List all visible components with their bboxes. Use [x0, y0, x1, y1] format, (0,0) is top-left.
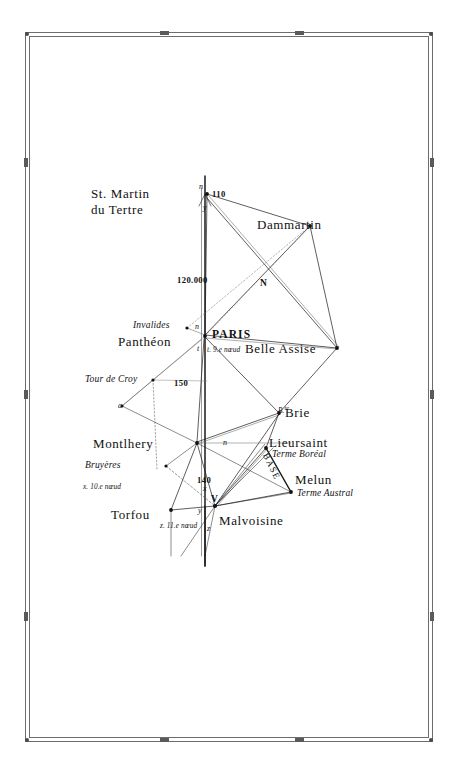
leg-brie-montlhery	[197, 413, 279, 442]
ray-tourdecroy-drop	[153, 380, 157, 470]
annotation-noeud-11: z. 11.e nœud	[160, 522, 197, 529]
station-prefix-brie: B.te	[278, 405, 289, 415]
border-tick-right-2	[430, 390, 434, 399]
leg-montlhery-torfou	[171, 443, 197, 510]
station-label-pantheon: Panthéon	[118, 335, 171, 348]
vertex-dot-bruyeres	[164, 464, 167, 467]
point-mark-z-malvoisine: z	[207, 525, 210, 533]
point-mark-x-malvoisine: x	[203, 485, 207, 493]
station-label-belle-assise: Belle Assise	[245, 342, 316, 355]
ray-bruyeres-malvoisine	[166, 466, 215, 506]
station-label-montlhery: Montlhery	[93, 437, 153, 450]
station-label-bruyeres: Bruyères	[85, 461, 121, 471]
border-corner-dot-bl	[25, 738, 29, 742]
ray-malvoisine-ne1	[215, 444, 265, 506]
station-label-tour-de-croy: Tour de Croy	[85, 375, 137, 385]
border-corner-dot-br	[429, 738, 433, 742]
station-label-invalides: Invalides	[133, 321, 170, 331]
station-label-st-martin-du-tertre: St. Martin du Tertre	[91, 186, 150, 218]
triangulation-map: St. Martin du Tertre 110 n y Dammartin 1…	[29, 36, 429, 738]
leg-dammartin-belleassise	[310, 226, 337, 348]
scale-mark-150: 150	[174, 379, 188, 388]
vertex-dot-tourdecroy	[151, 378, 154, 381]
leg-torfou-malvoisine	[171, 506, 215, 510]
leg-belleassise-brie	[279, 348, 337, 413]
station-label-lieursaint: Lieursaint	[269, 436, 328, 449]
station-label-melun: Melun	[295, 473, 332, 486]
border-tick-right-3	[430, 612, 434, 621]
border-tick-left-3	[24, 612, 28, 621]
border-tick-right-1	[430, 158, 434, 167]
point-label-a: a	[118, 402, 122, 410]
engraved-plate: St. Martin du Tertre 110 n y Dammartin 1…	[0, 0, 459, 769]
vertex-dot-belleassise	[335, 346, 339, 350]
point-label-N: N	[260, 279, 267, 289]
station-label-malvoisine: Malvoisine	[219, 514, 284, 527]
vertex-dot-lieursaint	[264, 446, 268, 450]
point-mark-n-paris: n	[195, 323, 199, 331]
point-label-V: V	[211, 495, 218, 505]
annotation-noeud-9: t. 9.e nœud	[207, 346, 240, 353]
station-label-paris: PARIS	[212, 329, 251, 341]
station-label-torfou: Torfou	[111, 508, 150, 521]
vertex-dot-stmartin	[205, 192, 209, 196]
station-label-dammartin: Dammartin	[257, 218, 322, 231]
border-tick-bottom-1	[160, 738, 169, 742]
annotation-terme-boreal: Terme Boréal	[272, 450, 326, 460]
leg-lieursaint-malvoisine	[215, 448, 266, 506]
triangulation-network-svg	[29, 36, 429, 738]
leg-brie-montlhery-b	[197, 415, 279, 444]
scale-mark-110: 110	[212, 190, 226, 199]
leg-paris-montlhery	[197, 339, 204, 442]
vertex-dot-paris	[203, 334, 207, 338]
point-mark-n-montlhery: n	[223, 439, 227, 447]
point-mark-n-upper: n	[199, 183, 203, 191]
border-tick-top-1	[160, 31, 169, 35]
border-tick-bottom-2	[295, 738, 304, 742]
vertex-dot-torfou	[169, 508, 173, 512]
border-tick-left-2	[24, 390, 28, 399]
border-tick-top-2	[295, 31, 304, 35]
point-mark-y-malvoisine: y	[198, 507, 202, 515]
vertex-dot-melun	[289, 490, 293, 494]
vertex-dot-invalides	[185, 326, 188, 329]
scale-mark-120000: 120.000	[177, 276, 208, 285]
annotation-terme-austral: Terme Austral	[297, 489, 353, 499]
border-corner-dot-tr	[429, 32, 433, 36]
point-mark-y-upper: y	[203, 204, 207, 212]
vertex-dot-malvoisine	[213, 504, 217, 508]
annotation-noeud-10: x. 10.e nœud	[83, 483, 121, 490]
border-tick-left-1	[24, 158, 28, 167]
vertex-dot-montlhery	[195, 441, 199, 445]
point-mark-t-paris: t	[197, 345, 199, 353]
